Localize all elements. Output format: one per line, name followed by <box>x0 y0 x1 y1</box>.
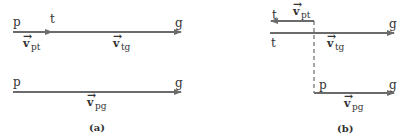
svg-text:pt: pt <box>301 10 311 20</box>
point-p-label: p <box>13 75 21 89</box>
point-p-label: p <box>13 15 21 29</box>
point-t-label: t <box>272 8 277 22</box>
point-g-label: g <box>389 17 397 31</box>
panel-b: t v → pt t g v → tg p g v → pg (b) <box>270 0 397 134</box>
vector-pt-label: v → pt <box>22 30 41 52</box>
point-g-label: g <box>175 16 183 30</box>
point-t-label: t <box>271 36 276 50</box>
svg-text:pg: pg <box>95 101 107 111</box>
point-p-label: p <box>319 78 327 92</box>
point-g-label: g <box>389 78 397 92</box>
vector-pt-label: v → pt <box>292 0 311 20</box>
point-t-label: t <box>50 12 55 26</box>
svg-text:pt: pt <box>31 42 41 52</box>
vector-tg-label: v → tg <box>112 30 131 52</box>
point-g-label: g <box>175 76 183 90</box>
caption-a: (a) <box>89 122 105 133</box>
relative-velocity-diagram: p t g v → pt v → tg p g v → pg (a) t v → <box>0 0 398 137</box>
panel-a: p t g v → pt v → tg p g v → pg (a) <box>13 12 183 133</box>
svg-text:pg: pg <box>352 102 364 112</box>
svg-text:tg: tg <box>335 42 345 52</box>
svg-text:tg: tg <box>121 42 131 52</box>
caption-b: (b) <box>337 123 353 134</box>
